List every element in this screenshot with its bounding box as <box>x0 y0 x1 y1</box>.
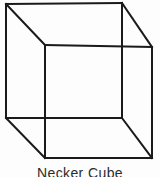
necker-cube-drawing <box>0 0 160 177</box>
figure-caption: Necker Cube <box>0 166 160 177</box>
necker-cube-figure: Necker Cube <box>0 0 160 177</box>
edge-back-top <box>6 3 122 4</box>
front-square <box>45 45 152 158</box>
edge-front-top <box>45 45 152 47</box>
back-square <box>6 3 122 118</box>
edge-diagonal-top-left <box>6 4 45 45</box>
edge-diagonal-bottom-right <box>122 118 152 158</box>
connecting-edges <box>6 3 152 158</box>
edge-diagonal-top-right <box>122 3 152 47</box>
edge-diagonal-bottom-left <box>6 118 45 158</box>
